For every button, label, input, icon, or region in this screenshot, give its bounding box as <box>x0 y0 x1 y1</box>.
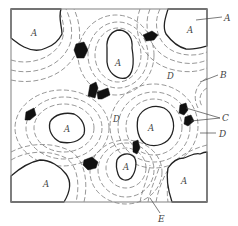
particle-4 <box>97 88 110 99</box>
callout-a: A <box>223 13 231 23</box>
leader-b <box>200 75 218 82</box>
label-a-bottom-center: A <box>122 162 129 172</box>
label-a-top-left: A <box>30 28 37 38</box>
label-d-center: D <box>112 114 120 124</box>
grain-top-right <box>164 9 207 49</box>
particle-5 <box>25 108 36 120</box>
particle-9 <box>83 157 98 170</box>
leader-e <box>150 198 160 213</box>
label-d-top-right: D <box>166 71 174 81</box>
callout-c: C <box>222 113 229 123</box>
label-a-mid-left: A <box>63 124 70 134</box>
label-a-bottom-right: A <box>180 176 187 186</box>
callout-e: E <box>157 214 165 224</box>
grain-top-center <box>107 30 133 78</box>
particle-2 <box>143 31 158 41</box>
label-a-top-right: A <box>186 25 193 35</box>
grains-a <box>11 9 207 202</box>
particle-6 <box>179 103 188 115</box>
leader-c2 <box>191 118 220 121</box>
grain-center-right <box>137 106 173 145</box>
particle-3 <box>88 82 98 98</box>
label-a-center-right: A <box>147 123 154 133</box>
label-a-bottom-left: A <box>42 179 49 189</box>
microstructure-diagram: A A A D A D A A A A A B C D E <box>0 0 238 226</box>
label-a-top-center: A <box>114 58 121 68</box>
particle-1 <box>74 42 88 58</box>
callout-d: D <box>218 129 226 139</box>
callout-b: B <box>219 70 227 80</box>
